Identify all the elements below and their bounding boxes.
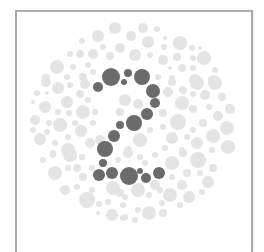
- background-dot: [65, 134, 71, 140]
- background-dot: [137, 154, 143, 160]
- background-dot: [175, 96, 189, 110]
- background-dot: [183, 169, 191, 177]
- background-dot: [92, 30, 104, 42]
- figure-dot: [124, 69, 132, 77]
- figure-dot: [141, 108, 153, 120]
- background-dot: [50, 60, 64, 74]
- background-dot: [67, 82, 73, 88]
- figure-dot: [146, 84, 160, 98]
- figure-dot: [121, 79, 127, 85]
- background-dot: [90, 69, 96, 75]
- background-dot: [90, 120, 96, 126]
- background-dot: [52, 140, 58, 146]
- background-dot: [124, 146, 132, 154]
- background-dot: [147, 52, 153, 58]
- background-dot: [131, 183, 145, 197]
- background-dot: [120, 202, 126, 208]
- background-dot: [89, 187, 95, 193]
- background-dot: [85, 97, 91, 103]
- background-dot: [166, 132, 178, 144]
- background-dot: [199, 119, 207, 127]
- background-dot: [46, 120, 52, 126]
- background-dot: [179, 149, 187, 157]
- background-dot: [34, 90, 40, 96]
- background-dot: [202, 176, 214, 188]
- background-dot: [61, 96, 73, 108]
- background-dot: [133, 133, 147, 147]
- background-dot: [209, 147, 215, 153]
- background-dot: [190, 55, 196, 61]
- background-dot: [159, 109, 167, 117]
- background-dot: [162, 145, 168, 151]
- background-dot: [221, 140, 235, 154]
- figure-dot: [93, 169, 105, 181]
- background-dot: [129, 49, 141, 61]
- background-dot: [189, 105, 197, 113]
- background-dot: [106, 52, 114, 60]
- figure-dot: [137, 168, 143, 174]
- figure-dot: [116, 121, 124, 129]
- background-dot: [165, 156, 179, 170]
- background-dot: [199, 189, 205, 195]
- background-dot: [76, 105, 90, 119]
- background-dot: [80, 79, 90, 89]
- background-dot: [72, 120, 78, 126]
- background-dot: [96, 211, 100, 215]
- background-dot: [225, 104, 235, 114]
- background-dot: [76, 90, 84, 98]
- background-dot: [213, 111, 223, 121]
- background-dot: [177, 180, 187, 190]
- background-dot: [170, 114, 186, 130]
- background-dot: [133, 99, 143, 109]
- background-dot: [52, 82, 64, 94]
- background-dot: [50, 152, 56, 158]
- background-dot: [209, 164, 217, 172]
- background-dot: [88, 49, 98, 59]
- background-dot: [163, 188, 177, 202]
- background-dot: [142, 36, 154, 48]
- background-dot: [126, 31, 136, 41]
- background-dot: [92, 109, 98, 115]
- background-dot: [220, 121, 234, 135]
- background-dot: [160, 124, 166, 130]
- background-dot: [190, 152, 206, 168]
- background-dot: [96, 201, 102, 207]
- background-dot: [169, 174, 175, 180]
- figure-dot: [106, 167, 118, 179]
- background-dot: [79, 192, 95, 208]
- background-dot: [48, 166, 62, 180]
- figure-dot: [153, 167, 165, 179]
- background-dot: [30, 127, 36, 133]
- background-dot: [132, 217, 138, 223]
- background-dot: [79, 38, 85, 44]
- background-dot: [115, 43, 125, 53]
- background-dot: [197, 170, 203, 176]
- background-dot: [198, 46, 202, 50]
- background-dot: [85, 138, 95, 148]
- background-dot: [189, 45, 195, 51]
- figure-dot: [108, 130, 120, 142]
- background-dot: [122, 194, 128, 200]
- background-dot: [76, 50, 84, 58]
- background-dot: [40, 157, 46, 163]
- background-dot: [147, 127, 153, 133]
- background-dot: [206, 104, 212, 110]
- background-dot: [208, 76, 222, 90]
- background-dot: [158, 55, 168, 65]
- background-dot: [116, 108, 124, 116]
- background-dot: [161, 44, 167, 50]
- background-dot: [100, 44, 106, 50]
- background-dot: [154, 26, 160, 32]
- background-dot: [75, 125, 87, 137]
- background-dot: [190, 91, 196, 97]
- figure-dot: [150, 98, 160, 108]
- background-dot: [105, 199, 111, 205]
- background-dot: [60, 185, 70, 195]
- figure-dot: [93, 82, 103, 92]
- background-dot: [44, 129, 50, 135]
- background-dot: [159, 209, 167, 217]
- background-dot: [142, 206, 156, 220]
- background-dot: [122, 214, 128, 220]
- background-dot: [41, 77, 51, 87]
- figure-dot: [120, 167, 138, 185]
